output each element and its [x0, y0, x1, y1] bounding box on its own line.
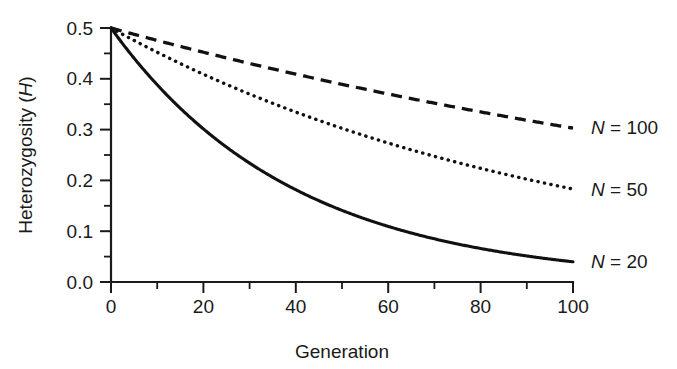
x-tick-label: 0 [106, 296, 117, 317]
y-axis-title: Heterozygosity (H) [15, 76, 36, 233]
y-tick-label: 0.3 [67, 119, 93, 140]
series-label-50: N = 50 [591, 179, 648, 200]
chart-figure: 0.00.10.20.30.40.5 020406080100 Generati… [0, 0, 677, 369]
series-label-100: N = 100 [591, 117, 658, 138]
x-axis-tick-labels: 020406080100 [106, 296, 589, 317]
y-tick-label: 0.4 [67, 68, 94, 89]
y-tick-label: 0.2 [67, 170, 93, 191]
y-tick-label: 0.0 [67, 272, 93, 293]
y-axis-title-tail: ) [15, 76, 36, 82]
x-tick-label: 100 [557, 296, 589, 317]
y-axis-ticks [100, 28, 111, 282]
y-axis-tick-labels: 0.00.10.20.30.40.5 [67, 18, 94, 293]
series-labels: N = 20N = 50N = 100 [591, 117, 658, 272]
series-label-value: = 100 [605, 117, 658, 138]
series-label-value: = 20 [605, 251, 648, 272]
series-label-value: = 50 [605, 179, 648, 200]
x-axis-ticks [111, 282, 573, 293]
series-label-symbol: N [591, 117, 605, 138]
curve-dashed [111, 28, 573, 128]
x-tick-label: 20 [193, 296, 214, 317]
heterozygosity-decay-chart: 0.00.10.20.30.40.5 020406080100 Generati… [0, 0, 677, 369]
y-tick-label: 0.5 [67, 18, 93, 39]
y-axis-title-symbol: H [15, 82, 36, 96]
series-label-symbol: N [591, 179, 605, 200]
series-label-20: N = 20 [591, 251, 648, 272]
x-axis-title: Generation [295, 341, 389, 362]
data-curves [111, 28, 573, 262]
x-tick-label: 80 [470, 296, 491, 317]
series-label-symbol: N [591, 251, 605, 272]
y-tick-label: 0.1 [67, 221, 93, 242]
x-tick-label: 60 [378, 296, 399, 317]
y-axis-title-text: Heterozygosity ( [15, 96, 36, 234]
x-tick-label: 40 [285, 296, 306, 317]
